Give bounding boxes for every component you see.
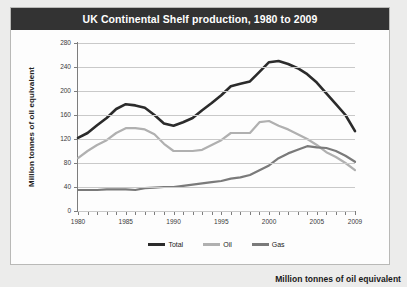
y-tick-label: 80 <box>49 160 71 167</box>
chart-caption: Million tonnes of oil equivalent <box>275 274 401 284</box>
x-tick-mark <box>145 212 146 215</box>
x-tick-mark <box>174 212 175 215</box>
legend-label: Total <box>168 241 183 248</box>
x-tick-mark <box>116 212 117 215</box>
y-tick-label: 0 <box>49 208 71 215</box>
y-tick-label: 240 <box>49 64 71 71</box>
x-tick-mark <box>193 212 194 215</box>
chart-legend: TotalOilGas <box>78 241 355 248</box>
x-tick-mark <box>126 212 127 215</box>
x-tick-mark <box>135 212 136 215</box>
y-tick-mark <box>74 43 77 44</box>
x-tick-label: 2000 <box>262 219 276 226</box>
x-tick-mark <box>307 212 308 215</box>
legend-swatch-icon <box>148 243 165 246</box>
y-tick-label: 160 <box>49 112 71 119</box>
x-tick-mark <box>164 212 165 215</box>
legend-item-total[interactable]: Total <box>148 241 183 248</box>
legend-label: Oil <box>223 241 232 248</box>
y-tick-mark <box>74 67 77 68</box>
x-tick-mark <box>355 212 356 215</box>
gridline <box>78 163 355 164</box>
gridline <box>78 139 355 140</box>
series-line-total <box>78 61 355 138</box>
x-tick-mark <box>250 212 251 215</box>
x-tick-mark <box>317 212 318 215</box>
legend-swatch-icon <box>203 243 220 246</box>
gridline <box>78 115 355 116</box>
y-axis-label: Million tonnes of oil equivalent <box>27 67 36 187</box>
x-tick-mark <box>240 212 241 215</box>
y-tick-label: 280 <box>49 40 71 47</box>
y-tick-mark <box>74 163 77 164</box>
gridline <box>78 211 355 212</box>
y-tick-mark <box>74 91 77 92</box>
x-tick-mark <box>202 212 203 215</box>
legend-item-gas[interactable]: Gas <box>252 241 285 248</box>
x-tick-mark <box>231 212 232 215</box>
gridline <box>78 67 355 68</box>
y-tick-mark <box>74 139 77 140</box>
x-tick-mark <box>183 212 184 215</box>
x-tick-label: 1985 <box>119 219 133 226</box>
gridline <box>78 43 355 44</box>
gridline <box>78 187 355 188</box>
y-tick-mark <box>74 211 77 212</box>
x-tick-mark <box>88 212 89 215</box>
gridline <box>78 91 355 92</box>
x-tick-mark <box>279 212 280 215</box>
x-tick-mark <box>259 212 260 215</box>
plot-area <box>78 43 355 211</box>
page-background: UK Continental Shelf production, 1980 to… <box>0 0 407 287</box>
x-tick-label: 2005 <box>310 219 324 226</box>
x-tick-mark <box>336 212 337 215</box>
x-tick-mark <box>212 212 213 215</box>
x-tick-label: 1995 <box>214 219 228 226</box>
x-tick-mark <box>345 212 346 215</box>
x-tick-label: 1980 <box>71 219 85 226</box>
legend-item-oil[interactable]: Oil <box>203 241 232 248</box>
x-tick-label: 1990 <box>166 219 180 226</box>
x-tick-mark <box>154 212 155 215</box>
x-tick-mark <box>97 212 98 215</box>
x-tick-mark <box>78 212 79 215</box>
y-tick-mark <box>74 187 77 188</box>
x-tick-mark <box>269 212 270 215</box>
y-tick-label: 40 <box>49 184 71 191</box>
x-tick-mark <box>288 212 289 215</box>
x-tick-mark <box>107 212 108 215</box>
x-tick-mark <box>298 212 299 215</box>
page-title: UK Continental Shelf production, 1980 to… <box>83 13 318 25</box>
y-tick-label: 120 <box>49 136 71 143</box>
y-tick-label: 200 <box>49 88 71 95</box>
x-tick-mark <box>326 212 327 215</box>
x-tick-label: 2009 <box>348 219 362 226</box>
chart-title-bar: UK Continental Shelf production, 1980 to… <box>11 8 389 30</box>
x-tick-mark <box>221 212 222 215</box>
series-lines <box>78 43 355 211</box>
series-line-gas <box>78 146 355 190</box>
y-tick-mark <box>74 115 77 116</box>
legend-label: Gas <box>272 241 285 248</box>
legend-swatch-icon <box>252 243 269 246</box>
